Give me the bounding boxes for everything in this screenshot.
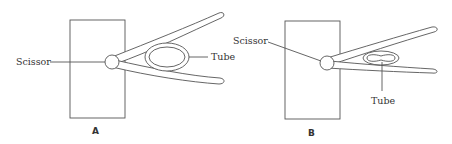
panel-b-scissor-label: Scissor (233, 35, 268, 46)
panel-a-title: A (92, 126, 99, 136)
panel-b-title: B (308, 128, 315, 138)
panel-a-scissor-label: Scissor (16, 56, 51, 67)
panel-b-scissor-leader (268, 42, 321, 61)
diagram-canvas: Scissor Tube A Scissor Tube B (0, 0, 452, 144)
panel-b: Scissor Tube B (233, 21, 437, 138)
panel-a-pivot (105, 55, 119, 69)
panel-a: Scissor Tube A (16, 13, 236, 136)
panel-b-tube-label: Tube (371, 95, 396, 106)
panel-b-tube-outer (363, 51, 399, 65)
panel-b-pivot (320, 56, 334, 70)
panel-b-rectangle (285, 21, 340, 119)
panel-a-rectangle (70, 20, 125, 118)
panel-a-tube-label: Tube (211, 51, 236, 62)
